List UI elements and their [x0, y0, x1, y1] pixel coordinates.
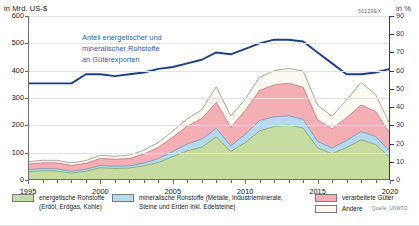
x-axis-tick: [303, 180, 304, 183]
legend-swatch-mineralische-rohstoffe: [112, 194, 134, 203]
graphic-code: 50229EX: [358, 8, 381, 14]
right-axis-tick: [390, 125, 394, 126]
x-axis-tick: [100, 180, 101, 184]
right-axis-tick-label: 80: [396, 30, 418, 37]
left-axis-tick-label: 600: [2, 12, 24, 19]
left-axis-tick: [25, 71, 29, 72]
left-axis-tick: [25, 125, 29, 126]
left-axis-tick-label: 300: [2, 94, 24, 101]
right-axis-tick-label: 10: [396, 158, 418, 165]
right-axis-tick-label: 90: [396, 12, 418, 19]
left-axis-tick: [25, 16, 29, 17]
left-axis-tick: [25, 153, 29, 154]
legend-label-andere: Andere: [342, 204, 363, 213]
gridline: [28, 16, 390, 17]
x-axis-tick: [390, 180, 391, 184]
bottom-divider: [0, 225, 419, 226]
right-axis-tick: [390, 16, 394, 17]
series-annotation: Anteil energetischer und mineralischer R…: [82, 33, 162, 66]
source-note: Quelle: UNWTO: [372, 206, 408, 211]
right-axis-tick-label: 60: [396, 67, 418, 74]
legend-swatch-verarbeitete-gueter: [315, 194, 337, 203]
left-axis-tick: [25, 98, 29, 99]
x-axis-tick: [43, 180, 44, 183]
x-axis-tick: [202, 180, 203, 183]
legend-label-mineralische-rohstoffe-line1: mineralische Rohstoffe (Metalle, Industr…: [139, 194, 283, 201]
left-axis-tick-label: 0: [2, 176, 24, 183]
x-axis-line: [28, 179, 390, 180]
chart-legend: energetische Rohstoffe (Erdöl, Erdgas, K…: [0, 188, 419, 226]
x-axis-tick: [158, 180, 159, 183]
right-axis-line: [389, 16, 390, 180]
x-axis-tick: [231, 180, 232, 183]
legend-label-verarbeitete-gueter: verarbeitete Güter: [342, 193, 394, 202]
right-axis-tick-label: 70: [396, 48, 418, 55]
legend-label-energetische-rohstoffe-line2: (Erdöl, Erdgas, Kohle): [39, 203, 102, 210]
x-axis-tick: [57, 180, 58, 183]
right-axis-tick-label: 40: [396, 103, 418, 110]
x-axis-tick: [347, 180, 348, 183]
gridline: [28, 125, 390, 126]
left-axis-tick-label: 200: [2, 121, 24, 128]
x-axis-tick: [274, 180, 275, 183]
legend-swatch-energetische-rohstoffe: [12, 194, 34, 203]
legend-item-mineralische-rohstoffe: mineralische Rohstoffe (Metalle, Industr…: [112, 193, 283, 211]
x-axis-tick: [28, 180, 29, 184]
right-axis-tick: [390, 34, 394, 35]
annotation-line-1: Anteil energetischer und: [82, 33, 162, 44]
x-axis-tick: [115, 180, 116, 183]
legend-item-energetische-rohstoffe: energetische Rohstoffe (Erdöl, Erdgas, K…: [12, 193, 105, 211]
x-axis-tick: [361, 180, 362, 183]
right-axis-tick: [390, 89, 394, 90]
x-axis-tick: [289, 180, 290, 183]
right-axis-tick: [390, 162, 394, 163]
legend-swatch-andere: [315, 205, 337, 214]
x-axis-tick: [318, 180, 319, 184]
x-axis-tick: [260, 180, 261, 183]
legend-label-energetische-rohstoffe-line1: energetische Rohstoffe: [39, 194, 105, 201]
legend-label-mineralische-rohstoffe-line2: Steine und Erden inkl. Edelsteine): [139, 203, 235, 210]
right-axis-tick-label: 30: [396, 121, 418, 128]
right-axis-tick: [390, 144, 394, 145]
left-axis-tick-label: 500: [2, 39, 24, 46]
gridline: [28, 98, 390, 99]
x-axis-tick: [173, 180, 174, 184]
x-axis-tick: [332, 180, 333, 183]
right-axis-tick: [390, 71, 394, 72]
legend-item-verarbeitete-gueter: verarbeitete Güter: [315, 193, 394, 202]
x-axis-tick: [187, 180, 188, 183]
x-axis-tick: [71, 180, 72, 183]
right-axis-tick: [390, 52, 394, 53]
annotation-line-2: mineralischer Rohstoffe: [82, 44, 162, 55]
right-axis-tick-label: 20: [396, 140, 418, 147]
x-axis-tick: [86, 180, 87, 183]
x-axis-tick: [376, 180, 377, 183]
left-axis-tick-label: 100: [2, 149, 24, 156]
left-axis-tick-label: 400: [2, 67, 24, 74]
chart-container: in Mrd. US-$ in % 50229EX 01002003004005…: [0, 0, 419, 226]
gridline: [28, 71, 390, 72]
legend-item-andere: Andere: [315, 204, 363, 213]
left-axis-tick: [25, 43, 29, 44]
x-axis-tick: [216, 180, 217, 183]
gridline: [28, 153, 390, 154]
right-axis-tick-label: 50: [396, 85, 418, 92]
x-axis-tick: [129, 180, 130, 183]
right-axis-tick-label: 0: [396, 176, 418, 183]
x-axis-tick: [245, 180, 246, 184]
x-axis-tick: [144, 180, 145, 183]
right-axis-tick: [390, 107, 394, 108]
annotation-line-3: an Güterexporten: [82, 55, 162, 66]
